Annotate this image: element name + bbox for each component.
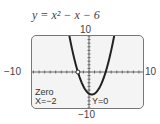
y-axis: [88, 36, 91, 108]
readout-x: X=−2: [35, 97, 57, 106]
x-min-label: −10: [4, 66, 21, 77]
y-min-label: −10: [78, 109, 95, 120]
parabola-curve: [67, 36, 117, 95]
readout-y: Y=0: [92, 97, 108, 106]
calculator-screen: Zero X=−2 Y=0: [31, 35, 144, 109]
y-max-label: 10: [80, 24, 91, 35]
x-max-label: 10: [145, 66, 156, 77]
zero-point-marker: [76, 70, 80, 74]
equation-title: y = x² − x − 6: [32, 8, 100, 23]
